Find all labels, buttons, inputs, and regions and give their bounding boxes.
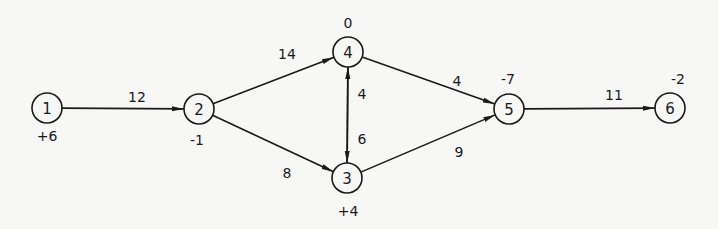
node-supply-3: +4 <box>338 203 359 219</box>
edge-label-3-to-5: 9 <box>455 144 464 160</box>
node-supply-4: 0 <box>344 15 353 31</box>
node-label-1: 1 <box>42 100 52 118</box>
edge-label-4-to-3: 6 <box>358 131 367 147</box>
edge-2-to-3 <box>213 115 334 171</box>
node-2: 2 <box>184 94 214 124</box>
edge-3-to-5 <box>361 115 495 172</box>
node-supply-2: -1 <box>190 132 204 148</box>
network-graph-canvas: 123456 12148464911+6-1+40-7-2 <box>0 0 718 229</box>
node-4: 4 <box>333 37 363 67</box>
edges-layer <box>62 57 655 172</box>
edge-label-2-to-4: 14 <box>278 46 296 62</box>
edge-label-4-to-5: 4 <box>453 73 462 89</box>
edge-label-3-to-4: 4 <box>358 86 367 102</box>
node-supply-6: -2 <box>671 71 685 87</box>
node-label-2: 2 <box>194 101 204 119</box>
network-diagram: 123456 12148464911+6-1+40-7-2 <box>0 0 718 229</box>
node-3: 3 <box>332 163 362 193</box>
edge-label-5-to-6: 11 <box>605 87 623 103</box>
node-label-6: 6 <box>665 100 675 118</box>
edge-label-2-to-3: 8 <box>283 165 292 181</box>
edge-4-to-5 <box>362 57 495 104</box>
edge-1-to-2 <box>62 108 184 109</box>
nodes-layer: 123456 <box>32 37 685 193</box>
node-label-3: 3 <box>342 170 352 188</box>
node-supply-5: -7 <box>501 71 515 87</box>
node-supply-1: +6 <box>37 128 58 144</box>
edge-2-to-4 <box>213 57 334 103</box>
edge-label-1-to-2: 12 <box>128 89 146 105</box>
edge-5-to-6 <box>524 108 655 109</box>
node-6: 6 <box>655 93 685 123</box>
node-label-5: 5 <box>504 101 514 119</box>
node-label-4: 4 <box>343 44 353 62</box>
node-5: 5 <box>494 94 524 124</box>
node-1: 1 <box>32 93 62 123</box>
edge-4-to-3 <box>347 67 348 163</box>
